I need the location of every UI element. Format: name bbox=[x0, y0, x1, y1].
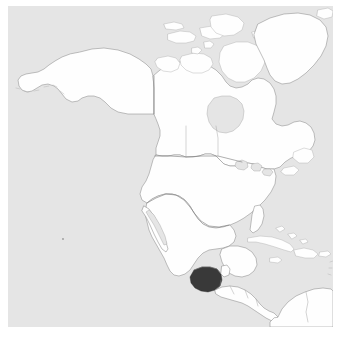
map-title: North America locator map bbox=[0, 21, 1, 22]
land-belize bbox=[221, 265, 230, 277]
map-vector-graphic bbox=[8, 6, 333, 327]
map-figure: North America locator map Grayscale outl… bbox=[0, 0, 340, 338]
map-speck bbox=[62, 238, 64, 240]
map-description: Grayscale outline locator map of North A… bbox=[0, 16, 1, 17]
map-canvas[interactable] bbox=[8, 6, 333, 327]
highlighted-country-label: Guatemala bbox=[0, 16, 1, 17]
